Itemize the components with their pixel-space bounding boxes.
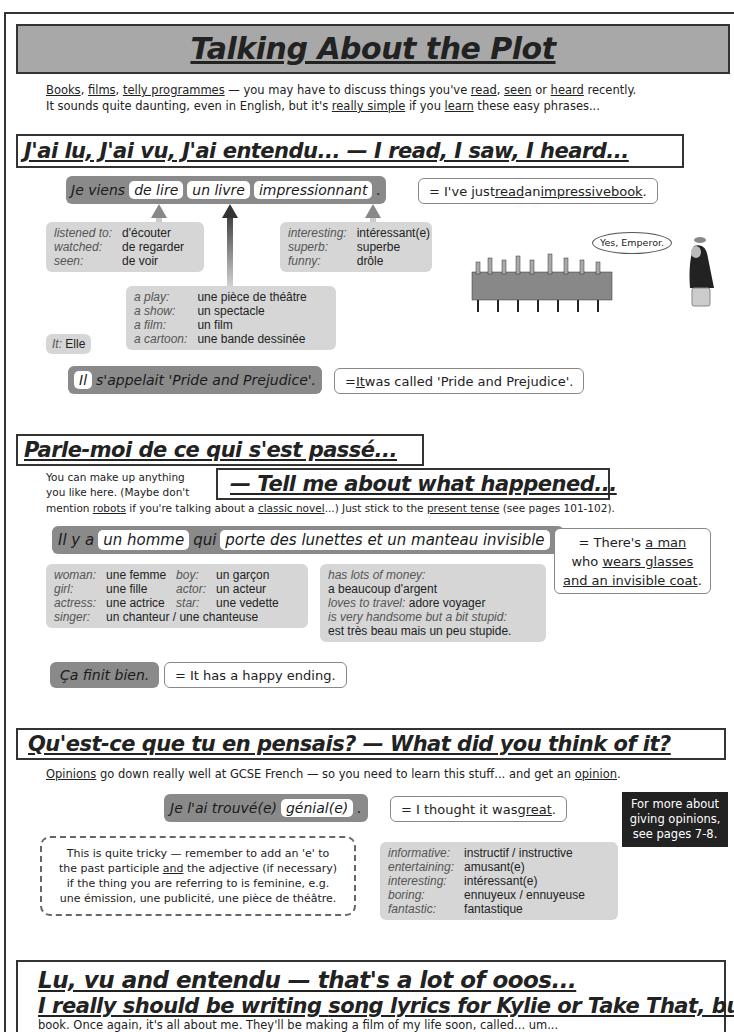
ending-french: Ça finit bien. <box>50 662 159 688</box>
opinions-vocab-box: informative:instructif / instructiveente… <box>380 842 618 920</box>
page-title-bar: Talking About the Plot <box>16 24 730 74</box>
section2-note-line-3: mention robots if you're talking about a… <box>46 500 726 516</box>
section3-heading-box: Qu'est-ce que tu en pensais? — What did … <box>16 728 726 760</box>
vocab-row: woman:une femmeboy:un garçon <box>54 568 289 582</box>
section1-translation-2: = It was called 'Pride and Prejudice'. <box>334 368 584 394</box>
section1-heading-box: J'ai lu, J'ai vu, J'ai entendu... — I re… <box>16 134 684 168</box>
noun-slot: un livre <box>187 181 250 199</box>
it-hint-box: It: Elle <box>46 334 91 354</box>
vocab-line: is very handsome but a bit stupid: <box>328 610 538 624</box>
emperor-illustration <box>684 232 718 308</box>
intro-line-1: Books, films, telly programmes — you may… <box>46 82 726 98</box>
page-title: Talking About the Plot <box>190 31 555 66</box>
pronoun-slot: Il <box>74 371 92 389</box>
opinion-slot: génial(e) <box>281 799 353 817</box>
section2-sentence: Il y a un homme qui porte des lunettes e… <box>52 526 564 554</box>
vocab-row: informative:instructif / instructive <box>388 846 595 860</box>
section2-heading-2: — Tell me about what happened... <box>230 472 617 496</box>
vocab-row: watched:de regarder <box>54 240 194 254</box>
description-slot: porte des lunettes et un manteau invisib… <box>220 530 549 550</box>
adjectives-vocab-box: interesting:intéressant(e)superb:superbe… <box>280 222 432 272</box>
vocab-row: entertaining:amusant(e) <box>388 860 595 874</box>
vocab-line: a beaucoup d'argent <box>328 582 538 596</box>
vocab-row: fantastic:fantastique <box>388 902 595 916</box>
vocab-row: singer:un chanteur / une chanteuse <box>54 610 289 624</box>
section2-heading-box-1: Parle-moi de ce qui s'est passé... <box>16 434 424 466</box>
vocab-line: est très beau mais un peu stupide. <box>328 624 538 638</box>
people-vocab-box: woman:une femmeboy:un garçongirl:une fil… <box>46 564 308 628</box>
sentence-end: . <box>376 182 380 198</box>
verb-slot: de lire <box>129 181 183 199</box>
vocab-row: boring:ennuyeux / ennuyeuse <box>388 888 595 902</box>
vocab-row: a show:un spectacle <box>134 304 317 318</box>
section3-sentence: Je l'ai trouvé(e) génial(e) . <box>164 794 368 822</box>
vocab-row: superb:superbe <box>288 240 440 254</box>
footer-line-1: I really should be writing song lyrics f… <box>38 998 704 1017</box>
footer-box: Lu, vu and entendu — that's a lot of ooo… <box>16 960 726 1032</box>
vocab-row: interesting:intéressant(e) <box>388 874 595 888</box>
nouns-vocab-box: a play:une pièce de théâtrea show:un spe… <box>126 286 336 350</box>
section1-translation: = I've just read an impressive book. <box>418 178 658 204</box>
footer-line-2: book. Once again, it's all about me. The… <box>38 1017 704 1032</box>
person-slot: un homme <box>98 530 189 550</box>
vocab-line: has lots of money: <box>328 568 538 582</box>
section3-translation: = I thought it was great. <box>390 796 567 822</box>
vocab-row: funny:drôle <box>288 254 440 268</box>
descriptions-vocab-box: has lots of money:a beaucoup d'argentlov… <box>320 564 546 642</box>
soldiers-illustration <box>468 252 618 314</box>
verbs-vocab-box: listened to:d'écouterwatched:de regarder… <box>46 222 204 272</box>
vocab-row: listened to:d'écouter <box>54 226 194 240</box>
sentence-lead: Je viens <box>71 182 125 198</box>
vocab-row: seen:de voir <box>54 254 194 268</box>
vocab-row: interesting:intéressant(e) <box>288 226 440 240</box>
adjective-slot: impressionnant <box>254 181 373 199</box>
section1-sentence-2: Il s'appelait 'Pride and Prejudice'. <box>68 366 322 394</box>
vocab-row: a film:un film <box>134 318 317 332</box>
section3-heading: Qu'est-ce que tu en pensais? — What did … <box>28 732 671 756</box>
ending-translation: = It has a happy ending. <box>164 662 347 688</box>
intro-text: Books, films, telly programmes — you may… <box>46 82 726 114</box>
section2-note: You can make up anything you like here. … <box>46 470 216 500</box>
section2-heading-box-2: — Tell me about what happened... <box>216 468 610 500</box>
footer-heading: Lu, vu and entendu — that's a lot of ooo… <box>38 967 576 993</box>
speech-bubble: Yes, Emperor. <box>592 232 672 254</box>
vocab-line: loves to travel: adore voyager <box>328 596 538 610</box>
section3-intro: Opinions go down really well at GCSE Fre… <box>46 766 726 782</box>
tricky-note: This is quite tricky — remember to add a… <box>40 836 356 916</box>
section1-heading: J'ai lu, J'ai vu, J'ai entendu... — I re… <box>24 139 629 163</box>
vocab-row: girl:une filleactor:un acteur <box>54 582 289 596</box>
section2-translation: = There's a man who wears glasses and an… <box>554 528 711 594</box>
section1-sentence: Je viens de lire un livre impressionnant… <box>66 176 386 204</box>
vocab-row: actress:une actricestar:une vedette <box>54 596 289 610</box>
arrow-up-icon <box>222 204 238 292</box>
vocab-row: a cartoon:une bande dessinée <box>134 332 317 346</box>
vocab-row: a play:une pièce de théâtre <box>134 290 317 304</box>
opinions-tip-box: For more about giving opinions, see page… <box>622 792 728 847</box>
section2-heading-1: Parle-moi de ce qui s'est passé... <box>24 438 397 462</box>
intro-line-2: It sounds quite daunting, even in Englis… <box>46 98 726 114</box>
